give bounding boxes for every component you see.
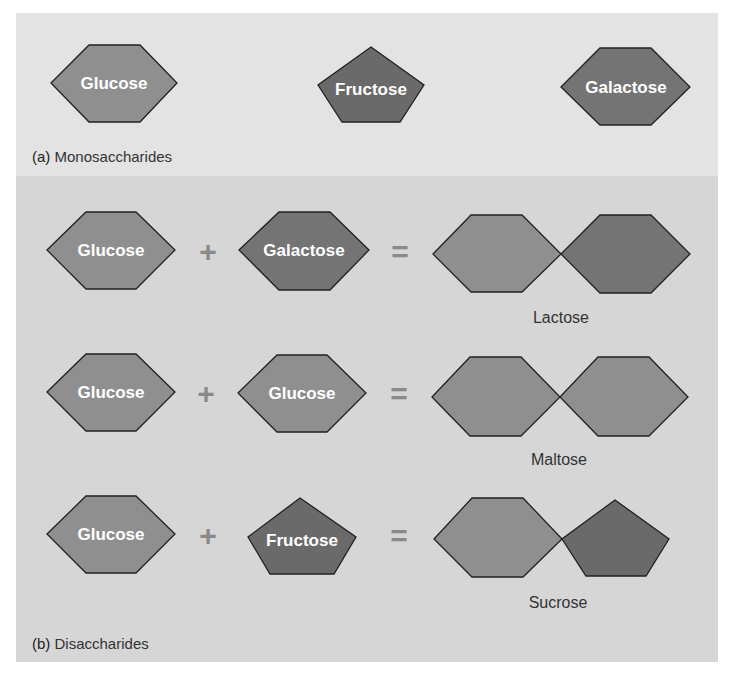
equals-operator: = <box>390 377 408 410</box>
glucose-label: Glucose <box>268 384 335 403</box>
sucrose-label: Sucrose <box>529 594 588 611</box>
equals-operator: = <box>390 519 408 552</box>
glucose-label: Glucose <box>80 74 147 93</box>
sucrose-fructose-unit <box>562 500 669 576</box>
lactose-glucose-unit <box>433 215 561 292</box>
glucose-label: Glucose <box>77 241 144 260</box>
galactose-label: Galactose <box>585 78 666 97</box>
glucose-label: Glucose <box>77 383 144 402</box>
plus-operator: + <box>199 235 217 268</box>
glucose-label: Glucose <box>77 525 144 544</box>
panel-a-caption: (a) Monosaccharides <box>32 148 172 165</box>
plus-operator: + <box>199 519 217 552</box>
caption-text: Monosaccharides <box>55 148 173 165</box>
panel-b-caption: (b) Disaccharides <box>32 635 149 652</box>
maltose-label: Maltose <box>531 451 587 468</box>
lactose-label: Lactose <box>533 309 589 326</box>
maltose-glucose-unit-1 <box>432 357 560 436</box>
fructose-label: Fructose <box>266 531 338 550</box>
fructose-label: Fructose <box>335 80 407 99</box>
galactose-label: Galactose <box>263 241 344 260</box>
lactose-galactose-unit <box>561 215 690 293</box>
caption-letter: (a) <box>32 148 50 165</box>
equals-operator: = <box>391 235 409 268</box>
plus-operator: + <box>197 377 215 410</box>
maltose-glucose-unit-2 <box>560 357 688 436</box>
saccharide-diagram: Glucose Fructose Galactose Glucose + Gal… <box>0 0 734 673</box>
caption-letter: (b) <box>32 635 50 652</box>
sucrose-glucose-unit <box>434 498 562 577</box>
caption-text: Disaccharides <box>55 635 149 652</box>
